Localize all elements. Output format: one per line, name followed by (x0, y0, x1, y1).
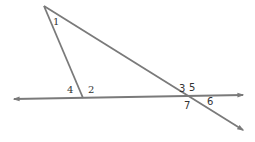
angle-diagram: 1 4 2 3 5 7 6 (0, 0, 255, 142)
angle-label-3: 3 (179, 83, 185, 94)
angle-label-5: 5 (189, 82, 195, 93)
left-segment (44, 6, 83, 98)
angle-label-6: 6 (207, 96, 213, 107)
transversal-line (44, 6, 243, 130)
angle-label-1: 1 (53, 16, 59, 27)
angle-label-2: 2 (88, 84, 94, 95)
angle-label-4: 4 (67, 84, 73, 95)
angle-label-7: 7 (184, 100, 190, 111)
